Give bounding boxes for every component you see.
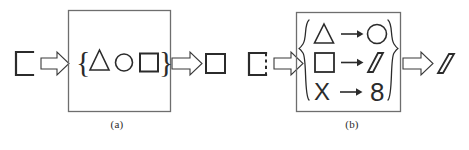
panel-a-member-triangle-icon — [90, 50, 109, 70]
panel-b-rule-2-to-parallelogram-icon — [368, 53, 383, 72]
panel-b-rule-1-to-circle-icon — [368, 25, 387, 44]
panel-b-rule-2-arrow-icon — [341, 59, 364, 66]
panel-a-caption: (a) — [0, 118, 234, 130]
figure-container: { } (a) — [0, 0, 469, 150]
panel-b-rule-3-arrow-icon — [340, 88, 363, 95]
panel-b-open-brace — [299, 20, 309, 100]
panel-b-caption: (b) — [235, 118, 469, 130]
panel-b-arrow-in-icon — [274, 52, 303, 75]
panel-a-open-brace: { — [76, 45, 90, 78]
panel-b-rule-1-from-triangle-icon — [315, 24, 334, 43]
panel-a-arrow-out-icon — [172, 52, 202, 75]
panel-a: { } (a) — [0, 0, 234, 150]
panel-b-output-parallelogram-icon — [438, 54, 454, 73]
panel-b-rule-row-2 — [315, 53, 383, 72]
panel-b-rule-3-from-letter-x: X — [314, 78, 330, 105]
panel-b-rule-3-to-digit-eight: 8 — [370, 77, 384, 107]
panel-b-rule-1-arrow-icon — [341, 30, 364, 37]
panel-a-arrow-in-icon — [41, 52, 69, 75]
panel-a-close-brace: } — [159, 45, 173, 78]
panel-a-output-square-icon — [206, 54, 225, 73]
panel-a-input-open-square-icon — [16, 52, 33, 75]
panel-b-rule-2-from-square-icon — [315, 53, 334, 72]
panel-b-input-dashed-square-icon — [249, 53, 266, 75]
panel-b: X 8 (b) — [235, 0, 469, 150]
panel-b-close-brace — [388, 20, 398, 100]
panel-b-rule-row-3: X 8 — [314, 77, 384, 107]
panel-a-member-circle-icon — [116, 54, 133, 71]
panel-b-arrow-out-icon — [403, 52, 433, 75]
panel-a-member-square-icon — [140, 54, 158, 72]
panel-b-rule-row-1 — [315, 24, 387, 44]
